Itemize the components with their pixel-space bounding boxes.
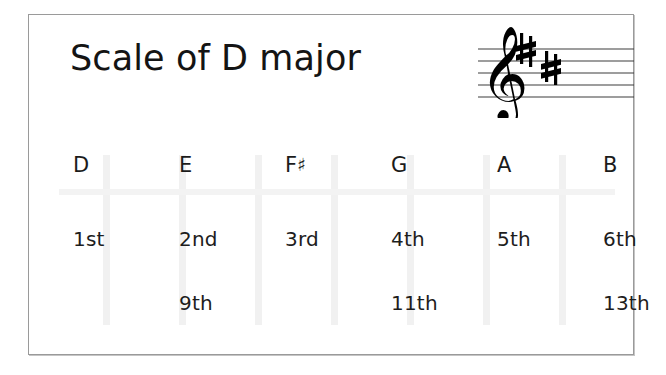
sharp-icon-c xyxy=(541,51,561,85)
note-name-row: D E F♯ G A B C♯ xyxy=(43,153,621,177)
table-cell-degree: 3rd xyxy=(255,227,361,251)
staff-svg: 𝄞 xyxy=(444,23,634,118)
note-letter: E xyxy=(179,153,192,177)
degree-row: 1st 2nd 3rd 4th 5th 6th 7th xyxy=(43,227,621,251)
table-cell-note: A xyxy=(467,153,573,177)
extension-row: 9th 11th 13th xyxy=(43,291,621,315)
table-cell-note: D xyxy=(43,153,149,177)
table-cell-degree: 1st xyxy=(43,227,149,251)
table-cell-extension xyxy=(255,291,361,315)
scale-card: Scale of D major 𝄞 xyxy=(28,14,634,355)
table-cell-degree: 5th xyxy=(467,227,573,251)
table-cell-degree: 2nd xyxy=(149,227,255,251)
note-accidental: ♯ xyxy=(297,154,306,175)
table-cell-note: F♯ xyxy=(255,153,361,177)
table-cell-extension xyxy=(467,291,573,315)
table-cell-note: G xyxy=(361,153,467,177)
grid-hline xyxy=(59,189,615,195)
note-letter: F xyxy=(285,153,297,177)
note-letter: D xyxy=(73,153,89,177)
card-header: Scale of D major 𝄞 xyxy=(29,15,633,123)
table-cell-degree: 6th xyxy=(573,227,666,251)
table-cell-extension: 13th xyxy=(573,291,666,315)
scale-table: D E F♯ G A B C♯ 1st 2nd 3rd xyxy=(43,127,621,325)
note-letter: A xyxy=(497,153,512,177)
table-cell-extension: 9th xyxy=(149,291,255,315)
page-title: Scale of D major xyxy=(70,41,361,76)
music-staff: 𝄞 xyxy=(444,23,634,118)
table-cell-extension xyxy=(43,291,149,315)
note-letter: B xyxy=(603,153,618,177)
table-cell-note: E xyxy=(149,153,255,177)
table-cell-degree: 4th xyxy=(361,227,467,251)
table-cell-extension: 11th xyxy=(361,291,467,315)
note-letter: G xyxy=(391,153,407,177)
table-cell-note: B xyxy=(573,153,666,177)
